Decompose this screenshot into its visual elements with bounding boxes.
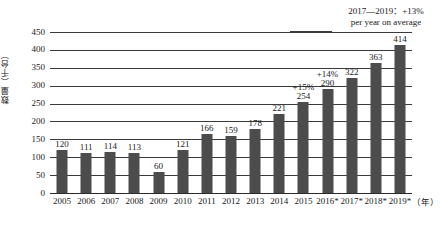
x-axis-tick-label: 2008 xyxy=(122,196,146,207)
bar xyxy=(370,63,381,193)
bar-slot: 114 xyxy=(98,32,122,193)
bar-slot: 254+15% xyxy=(291,32,315,193)
growth-annotation: 2017—2019：+13% per year on average xyxy=(333,6,439,27)
bar-value-label: 414 xyxy=(393,35,407,44)
x-axis-title: （年） xyxy=(412,197,439,208)
bar xyxy=(250,129,261,193)
bar-value-label: 120 xyxy=(55,140,69,149)
bar xyxy=(153,172,164,193)
x-axis-tick-label: 2015 xyxy=(291,196,315,207)
bar xyxy=(274,114,285,193)
bar-value-label: 322 xyxy=(345,68,359,77)
growth-rate-label: +15% xyxy=(293,83,315,92)
bar-value-label: 254 xyxy=(297,92,311,101)
x-axis-tick-label: 2009 xyxy=(147,196,171,207)
bar-slot: 363 xyxy=(364,32,388,193)
bar-slot: 120 xyxy=(50,32,74,193)
x-axis-tick-label: 2007 xyxy=(98,196,122,207)
y-axis-title: 数量（千台） xyxy=(2,50,16,104)
growth-rate-label: +14% xyxy=(317,70,339,79)
bar xyxy=(322,89,333,193)
x-axis-tick-label: 2014 xyxy=(267,196,291,207)
bar-value-label: 363 xyxy=(369,53,383,62)
x-axis-tick-label: 2013 xyxy=(243,196,267,207)
y-axis-tick-label: 200 xyxy=(19,117,45,126)
bar xyxy=(225,136,236,193)
x-axis-tick-label: 2011 xyxy=(195,196,219,207)
bar-value-label: 178 xyxy=(248,119,262,128)
x-axis-tick-label: 2012 xyxy=(219,196,243,207)
bar-slot: 159 xyxy=(219,32,243,193)
x-axis-tick-label: 2016* xyxy=(315,196,339,207)
x-axis-tick-label: 2005 xyxy=(50,196,74,207)
x-axis-tick-label: 2006 xyxy=(74,196,98,207)
bar-value-label: 113 xyxy=(128,143,141,152)
x-axis-tick-label: 2010 xyxy=(171,196,195,207)
bar-slot: 414 xyxy=(388,32,412,193)
y-axis-tick-label: 50 xyxy=(19,171,45,180)
bar-value-label: 221 xyxy=(273,104,287,113)
bar-slot: 290+14% xyxy=(315,32,339,193)
bar xyxy=(298,102,309,193)
bar-slot: 60 xyxy=(147,32,171,193)
bar xyxy=(346,78,357,193)
bar-value-label: 290 xyxy=(321,79,335,88)
bar xyxy=(129,153,140,193)
bar xyxy=(57,150,68,193)
bar-value-label: 111 xyxy=(80,143,93,152)
annotation-line-2: per year on average xyxy=(333,17,439,28)
x-axis-tick-label: 2018* xyxy=(364,196,388,207)
bar-slot: 113 xyxy=(122,32,146,193)
y-axis-tick-label: 350 xyxy=(19,63,45,72)
x-axis-tick-label: 2017* xyxy=(340,196,364,207)
bar-value-label: 114 xyxy=(104,142,117,151)
y-axis-tick-label: 400 xyxy=(19,45,45,54)
bar-slot: 221 xyxy=(267,32,291,193)
y-axis-tick-label: 0 xyxy=(19,189,45,198)
y-axis-tick-label: 300 xyxy=(19,81,45,90)
bar-value-label: 159 xyxy=(224,126,238,135)
bar xyxy=(105,152,116,193)
bar-slot: 322 xyxy=(340,32,364,193)
bar-value-label: 60 xyxy=(154,162,163,171)
x-axis-tick-label: 2019* xyxy=(388,196,412,207)
bar xyxy=(81,153,92,193)
bar xyxy=(177,150,188,193)
annotation-leader-line xyxy=(290,31,332,32)
y-axis-tick-label: 150 xyxy=(19,135,45,144)
bar xyxy=(201,134,212,193)
x-axis-tick-labels: 2005200620072008200920102011201220132014… xyxy=(50,196,412,212)
bar-chart: 数量（千台） 050100150200250300350400450 12011… xyxy=(0,0,440,229)
bar-series: 12011111411360121166159178221254+15%290+… xyxy=(50,32,412,193)
bar-slot: 111 xyxy=(74,32,98,193)
bar-value-label: 166 xyxy=(200,124,214,133)
y-axis-tick-label: 100 xyxy=(19,153,45,162)
annotation-line-1: 2017—2019：+13% xyxy=(333,6,439,17)
bar-value-label: 121 xyxy=(176,140,190,149)
y-axis-tick-labels: 050100150200250300350400450 xyxy=(17,0,45,229)
bar xyxy=(394,45,405,193)
x-axis-line xyxy=(50,193,412,194)
y-axis-tick-label: 250 xyxy=(19,99,45,108)
bar-slot: 121 xyxy=(171,32,195,193)
y-axis-tick-label: 450 xyxy=(19,28,45,37)
bar-slot: 166 xyxy=(195,32,219,193)
bar-slot: 178 xyxy=(243,32,267,193)
